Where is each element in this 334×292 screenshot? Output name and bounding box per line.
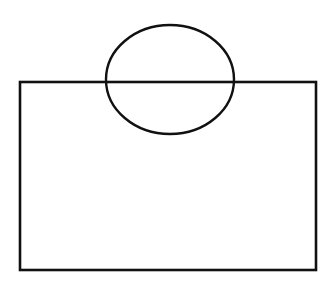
diagram-canvas <box>0 0 334 292</box>
diagram-background <box>0 0 334 292</box>
